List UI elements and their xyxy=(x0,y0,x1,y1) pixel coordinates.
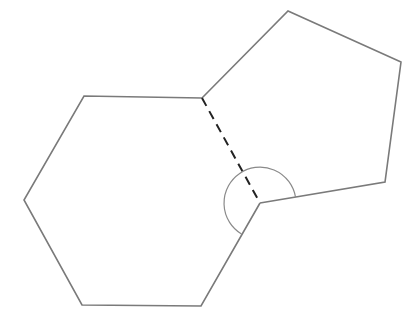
shared-edge-dashed xyxy=(202,98,260,203)
pentagon-outline xyxy=(202,11,401,203)
diagram-canvas xyxy=(0,0,413,324)
angle-arc xyxy=(224,167,295,234)
